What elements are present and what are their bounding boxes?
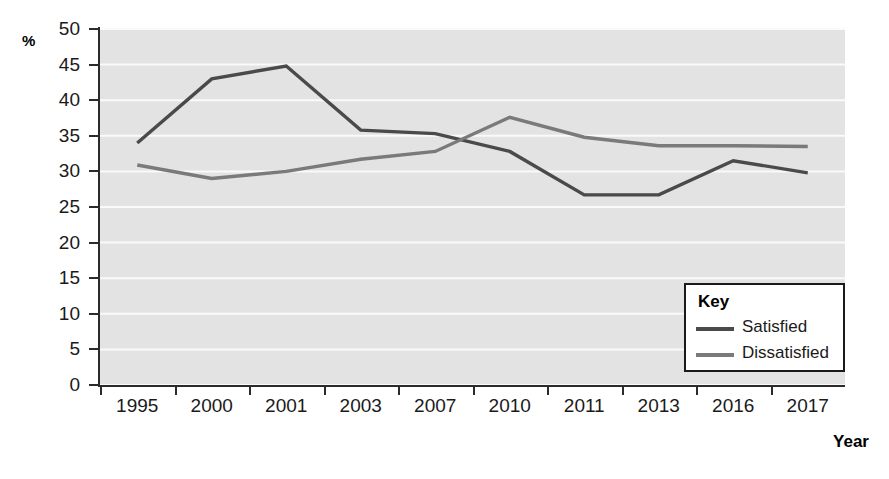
legend-swatch-dissatisfied (696, 353, 734, 357)
y-tick-mark (89, 242, 98, 244)
x-tick-mark (100, 385, 102, 395)
y-tick-label: 50 (34, 19, 80, 38)
y-tick-mark (89, 99, 98, 101)
y-tick-label: 25 (34, 197, 80, 216)
y-tick-mark (89, 277, 98, 279)
x-tick-mark (249, 385, 251, 395)
y-tick-mark (89, 348, 98, 350)
x-tick-mark (771, 385, 773, 395)
x-tick-mark (473, 385, 475, 395)
x-axis-line (98, 385, 845, 387)
y-tick-mark (89, 384, 98, 386)
x-tick-mark (175, 385, 177, 395)
y-tick-label: 20 (34, 233, 80, 252)
y-tick-mark (89, 64, 98, 66)
x-tick-mark (547, 385, 549, 395)
x-tick-mark (622, 385, 624, 395)
legend-title: Key (698, 292, 729, 312)
chart-container: % Year 50454035302520151050 199520002001… (0, 0, 889, 479)
y-tick-mark (89, 135, 98, 137)
legend-swatch-satisfied (696, 327, 734, 331)
y-tick-label: 40 (34, 90, 80, 109)
legend-label-dissatisfied: Dissatisfied (742, 343, 829, 363)
x-tick-label: 2017 (763, 396, 853, 415)
x-tick-mark (324, 385, 326, 395)
y-tick-label: 10 (34, 304, 80, 323)
y-tick-label: 5 (34, 339, 80, 358)
y-tick-label: 15 (34, 268, 80, 287)
y-tick-mark (89, 28, 98, 30)
y-tick-mark (89, 313, 98, 315)
legend-label-satisfied: Satisfied (742, 317, 807, 337)
x-tick-mark (696, 385, 698, 395)
legend-box: Key Satisfied Dissatisfied (684, 283, 845, 372)
y-axis-line (98, 27, 100, 387)
y-tick-label: 30 (34, 161, 80, 180)
series-line-dissatisfied (137, 117, 808, 178)
y-tick-label: 0 (34, 375, 80, 394)
x-axis-label: Year (833, 432, 869, 452)
y-tick-mark (89, 206, 98, 208)
x-tick-mark (398, 385, 400, 395)
y-tick-label: 35 (34, 126, 80, 145)
y-tick-label: 45 (34, 55, 80, 74)
y-tick-mark (89, 170, 98, 172)
